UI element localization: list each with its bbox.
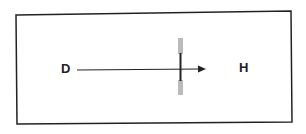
frame-border bbox=[16, 11, 292, 124]
barrier-top-gray bbox=[178, 38, 183, 54]
arrow-shaft bbox=[77, 69, 200, 70]
diagram-canvas bbox=[0, 0, 306, 134]
label-h: H bbox=[239, 60, 248, 75]
arrow-head-icon bbox=[198, 66, 206, 73]
barrier-bottom-gray bbox=[178, 80, 183, 95]
label-d: D bbox=[61, 61, 70, 76]
